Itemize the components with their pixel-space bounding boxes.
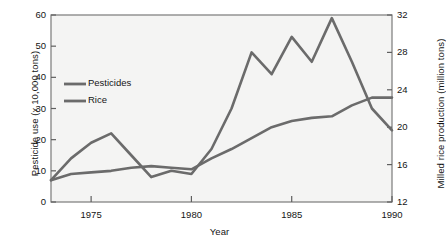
x-tick-label: 1990 xyxy=(372,209,412,220)
left-tick-label: 40 xyxy=(22,71,46,82)
left-tick-label: 20 xyxy=(22,134,46,145)
left-tick-label: 60 xyxy=(22,9,46,20)
y-axis-right-title: Milled rice production (million tons) xyxy=(435,19,446,209)
legend-label-rice: Rice xyxy=(88,94,107,105)
x-tick-label: 1975 xyxy=(71,209,111,220)
left-tick-label: 10 xyxy=(22,165,46,176)
legend-label-pesticides: Pesticides xyxy=(88,77,131,88)
right-tick-label: 24 xyxy=(397,84,421,95)
x-tick-label: 1985 xyxy=(272,209,312,220)
x-tick-label: 1980 xyxy=(171,209,211,220)
right-tick-label: 20 xyxy=(397,121,421,132)
right-tick-label: 12 xyxy=(397,196,421,207)
right-tick-label: 16 xyxy=(397,159,421,170)
left-tick-label: 50 xyxy=(22,40,46,51)
x-axis-title: Year xyxy=(0,226,439,237)
left-tick-label: 0 xyxy=(22,196,46,207)
plot-area-background xyxy=(51,15,392,202)
right-tick-label: 28 xyxy=(397,46,421,57)
left-tick-label: 30 xyxy=(22,103,46,114)
right-tick-label: 32 xyxy=(397,9,421,20)
